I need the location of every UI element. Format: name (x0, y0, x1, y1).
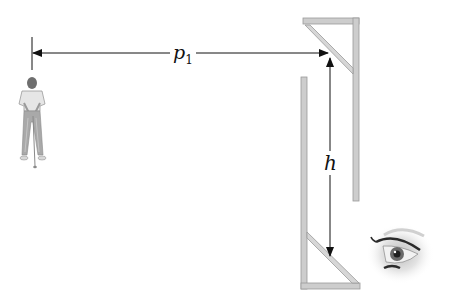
lower-mirror (307, 232, 359, 283)
p1-label: p1 (170, 43, 196, 66)
upper-mirror (305, 25, 353, 74)
golfer-figure (19, 77, 46, 168)
h-label: h (323, 151, 338, 175)
diagram-graphics (0, 0, 452, 301)
eye-figure (366, 224, 434, 284)
periscope-diagram: p1 h (0, 0, 452, 301)
